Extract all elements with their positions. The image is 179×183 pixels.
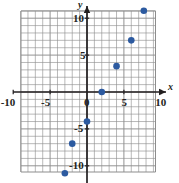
- data-point: [62, 170, 69, 177]
- x-tick-label: 10: [155, 97, 166, 108]
- axes: [13, 6, 166, 183]
- y-tick-label: -10: [69, 160, 84, 171]
- data-point: [128, 37, 135, 44]
- coordinate-plane-figure: -10-50510-10-5510xy: [0, 0, 179, 183]
- data-point: [69, 140, 76, 147]
- y-tick-label: 10: [73, 13, 84, 24]
- y-tick-label: 5: [80, 50, 86, 61]
- y-axis-name-label: y: [78, 0, 82, 10]
- data-point: [113, 63, 120, 70]
- y-axis-arrowhead: [84, 6, 90, 13]
- x-tick-label: -5: [41, 97, 50, 108]
- data-point: [141, 8, 148, 15]
- data-point: [98, 89, 105, 96]
- data-point: [84, 118, 91, 125]
- x-tick-label: 0: [84, 97, 90, 108]
- x-tick-label: -10: [1, 97, 16, 108]
- x-axis-name-label: x: [168, 82, 173, 92]
- x-tick-label: 5: [121, 97, 127, 108]
- x-axis-arrowhead: [159, 89, 166, 95]
- scatter-plot-svg: [0, 0, 179, 183]
- y-tick-label: -5: [74, 123, 83, 134]
